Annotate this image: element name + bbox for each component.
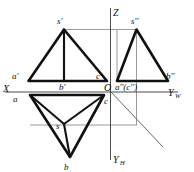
label-s-prime: s' (57, 16, 64, 26)
axis-system (5, 8, 178, 160)
labels: s' a' c' b' s'' b'' a''(c'') a c s b X Z… (2, 7, 181, 172)
label-a-c-double-prime: a''(c'') (115, 82, 137, 92)
drawing-canvas: s' a' c' b' s'' b'' a''(c'') a c s b X Z… (0, 0, 194, 172)
label-b: b (64, 162, 69, 172)
label-origin-o: O (104, 82, 111, 93)
label-b-prime: b' (59, 82, 67, 92)
label-s-double-prime: s'' (131, 16, 139, 26)
label-a: a (13, 94, 18, 104)
top-view-edge-cs (64, 95, 104, 124)
side-view-group (117, 30, 168, 82)
side-view-triangle (117, 30, 168, 82)
label-s: s (56, 121, 60, 131)
label-a-prime: a' (12, 71, 20, 81)
label-axis-z: Z (113, 7, 119, 18)
label-b-double-prime: b'' (166, 71, 175, 81)
top-view-group (30, 95, 104, 157)
label-axis-yh: Y (113, 154, 120, 165)
label-axis-yh-sub: H (119, 159, 125, 166)
label-axis-yw-sub: W (175, 92, 181, 99)
label-c: c (104, 96, 108, 106)
label-axis-x: X (2, 83, 10, 94)
projection-drawing: s' a' c' b' s'' b'' a''(c'') a c s b X Z… (0, 0, 194, 172)
